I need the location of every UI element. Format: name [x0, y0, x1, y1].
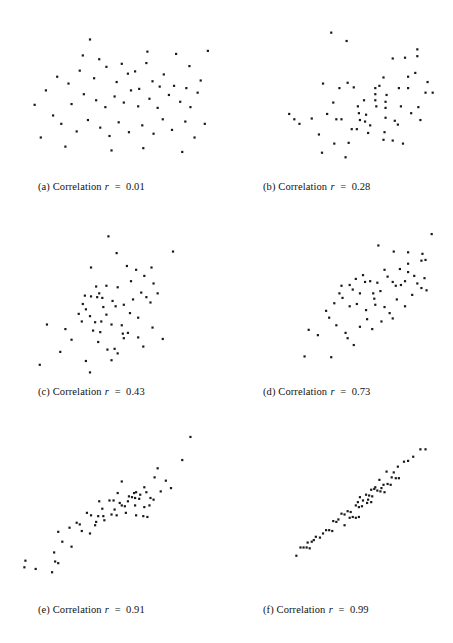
scatter-panel-a [8, 22, 213, 174]
scatter-point [127, 500, 129, 502]
scatter-point [410, 112, 412, 114]
scatter-point [307, 541, 309, 543]
scatter-point [89, 371, 91, 373]
scatter-point [95, 285, 97, 287]
scatter-point [298, 123, 300, 125]
scatter-point [163, 73, 165, 75]
scatter-point [407, 263, 409, 265]
scatter-point [110, 513, 112, 515]
scatter-point [402, 142, 404, 144]
scatter-point [366, 318, 368, 320]
caption-d-value: 0.73 [352, 386, 371, 397]
scatter-point [148, 98, 150, 100]
scatter-point [145, 491, 147, 493]
scatter-point [340, 118, 342, 120]
scatter-point [356, 303, 358, 305]
scatter-point [393, 471, 395, 473]
scatter-point [143, 275, 145, 277]
scatter-point [361, 505, 363, 507]
scatter-point [152, 499, 154, 501]
scatter-point [110, 323, 112, 325]
scatter-point [419, 119, 421, 121]
caption-a-symbol: r [104, 181, 109, 192]
scatter-point [162, 118, 164, 120]
scatter-point [344, 332, 346, 334]
scatter-point [343, 513, 345, 515]
scatter-canvas-f [240, 432, 445, 597]
scatter-plot-a [8, 22, 213, 174]
scatter-point [407, 460, 409, 462]
scatter-point [149, 497, 151, 499]
scatter-point [128, 131, 130, 133]
scatter-point [94, 524, 96, 526]
scatter-point [86, 512, 88, 514]
scatter-point [134, 70, 136, 72]
scatter-point [121, 480, 123, 482]
scatter-point [391, 476, 393, 478]
scatter-point [127, 332, 129, 334]
scatter-point [350, 511, 352, 513]
scatter-point [425, 289, 427, 291]
scatter-point [102, 515, 104, 517]
scatter-point [200, 79, 202, 81]
scatter-point [162, 338, 164, 340]
scatter-point [79, 70, 81, 72]
scatter-point [204, 123, 206, 125]
scatter-point [338, 87, 340, 89]
caption-c: (c) Correlation r = 0.43 [38, 386, 145, 398]
scatter-point [101, 508, 103, 510]
scatter-point [380, 320, 382, 322]
caption-d-equals: = [338, 386, 349, 397]
scatter-point [95, 521, 97, 523]
scatter-point [432, 92, 434, 94]
scatter-point [123, 101, 125, 103]
caption-a-index: (a) [38, 181, 50, 192]
scatter-point [333, 302, 335, 304]
caption-a-equals: = [112, 181, 123, 192]
scatter-point [352, 516, 354, 518]
scatter-point [322, 82, 324, 84]
scatter-point [404, 57, 406, 59]
scatter-point [141, 124, 143, 126]
scatter-point [345, 40, 347, 42]
scatter-point [121, 504, 123, 506]
scatter-point [385, 470, 387, 472]
scatter-point [131, 496, 133, 498]
scatter-point [107, 235, 109, 237]
scatter-point [306, 546, 308, 548]
scatter-point [135, 514, 137, 516]
scatter-point [105, 314, 107, 316]
scatter-point [137, 317, 139, 319]
scatter-point [70, 103, 72, 105]
scatter-point [165, 480, 167, 482]
scatter-point [159, 85, 161, 87]
scatter-point [145, 62, 147, 64]
scatter-point [90, 295, 92, 297]
scatter-point [355, 504, 357, 506]
scatter-point [392, 139, 394, 141]
scatter-point [81, 320, 83, 322]
scatter-point [106, 348, 108, 350]
scatter-point [404, 280, 406, 282]
scatter-point [193, 136, 195, 138]
scatter-point [185, 87, 187, 89]
caption-b-symbol: r [330, 181, 335, 192]
scatter-point [172, 250, 174, 252]
scatter-point [76, 522, 78, 524]
scatter-point [396, 298, 398, 300]
scatter-point [126, 265, 128, 267]
scatter-point [140, 291, 142, 293]
scatter-plot-f [240, 432, 445, 597]
scatter-point [378, 85, 380, 87]
scatter-point [313, 539, 315, 541]
scatter-point [87, 119, 89, 121]
scatter-point [113, 348, 115, 350]
scatter-point [328, 529, 330, 531]
scatter-point [113, 95, 115, 97]
scatter-plot-d [240, 228, 445, 380]
scatter-point [362, 499, 364, 501]
caption-c-value: 0.43 [126, 386, 145, 397]
scatter-point [127, 73, 129, 75]
scatter-point [117, 286, 119, 288]
scatter-point [315, 536, 317, 538]
